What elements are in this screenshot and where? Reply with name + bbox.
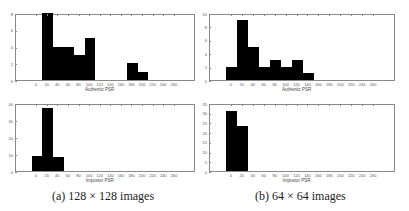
y-tick-mark — [15, 155, 17, 156]
x-tick-mark — [297, 104, 298, 106]
histogram-bar — [127, 63, 138, 80]
x-tick-mark — [329, 104, 330, 106]
y-tick-mark — [15, 172, 17, 173]
x-tick-mark — [340, 104, 341, 106]
y-tick-label: 6 — [195, 38, 207, 43]
plot-frame — [15, 14, 195, 81]
x-tick-label: 260 — [366, 173, 380, 178]
histogram-bar — [226, 111, 237, 171]
x-axis-label: Authentic PSR — [70, 87, 130, 92]
x-tick-mark — [373, 104, 374, 106]
x-tick-mark — [47, 104, 48, 106]
y-tick-mark — [209, 114, 211, 115]
y-tick-label: 40 — [1, 102, 13, 107]
x-tick-mark — [174, 14, 175, 16]
x-tick-mark — [275, 14, 276, 16]
y-tick-label: 35 — [195, 102, 207, 107]
x-tick-mark — [351, 104, 352, 106]
x-tick-mark — [307, 14, 308, 16]
histogram-bar — [292, 60, 303, 80]
y-tick-mark — [209, 41, 211, 42]
y-tick-mark — [209, 133, 211, 134]
x-tick-mark — [57, 14, 58, 16]
y-tick-mark — [209, 81, 211, 82]
y-tick-mark — [15, 31, 17, 32]
histogram-bar — [74, 55, 85, 80]
x-tick-mark — [68, 104, 69, 106]
x-tick-mark — [286, 104, 287, 106]
y-tick-label: 0 — [195, 79, 207, 84]
y-tick-mark — [209, 27, 211, 28]
x-axis-label: Authentic PSR — [267, 87, 327, 92]
y-tick-label: 0 — [195, 170, 207, 175]
y-tick-label: 4 — [195, 52, 207, 57]
x-tick-mark — [121, 14, 122, 16]
x-tick-mark — [253, 14, 254, 16]
x-tick-mark — [329, 14, 330, 16]
x-tick-mark — [89, 104, 90, 106]
x-tick-mark — [286, 14, 287, 16]
y-tick-label: 2 — [1, 62, 13, 67]
histogram-bar — [281, 67, 292, 80]
x-tick-mark — [36, 104, 37, 106]
y-tick-label: 10 — [1, 153, 13, 158]
histogram-bar — [42, 13, 53, 80]
y-tick-label: 6 — [1, 28, 13, 33]
x-tick-mark — [57, 104, 58, 106]
y-tick-label: 15 — [195, 140, 207, 145]
x-tick-mark — [340, 14, 341, 16]
x-tick-mark — [297, 14, 298, 16]
y-tick-label: 30 — [1, 119, 13, 124]
plot-frame — [209, 104, 395, 172]
x-tick-mark — [231, 14, 232, 16]
y-tick-mark — [209, 68, 211, 69]
y-tick-label: 10 — [195, 150, 207, 155]
y-tick-label: 20 — [195, 131, 207, 136]
x-tick-mark — [163, 104, 164, 106]
x-tick-mark — [110, 104, 111, 106]
x-tick-label: 260 — [167, 173, 181, 178]
histogram-bar — [85, 38, 96, 80]
histogram-bar — [53, 47, 64, 81]
y-tick-label: 8 — [195, 25, 207, 30]
x-tick-mark — [68, 14, 69, 16]
histogram-bar — [303, 73, 314, 80]
histogram-bar — [237, 20, 248, 80]
x-tick-mark — [231, 104, 232, 106]
x-tick-mark — [153, 14, 154, 16]
x-tick-mark — [362, 14, 363, 16]
histogram-bar — [53, 157, 64, 171]
y-tick-mark — [209, 123, 211, 124]
y-tick-mark — [15, 121, 17, 122]
y-tick-label: 10 — [195, 12, 207, 17]
y-tick-label: 4 — [1, 45, 13, 50]
x-tick-mark — [275, 104, 276, 106]
y-tick-mark — [209, 153, 211, 154]
x-tick-mark — [242, 104, 243, 106]
x-tick-mark — [142, 104, 143, 106]
x-tick-mark — [153, 104, 154, 106]
x-tick-mark — [264, 104, 265, 106]
x-tick-mark — [79, 104, 80, 106]
y-tick-mark — [15, 81, 17, 82]
y-tick-mark — [209, 14, 211, 15]
x-tick-mark — [36, 14, 37, 16]
x-tick-label: 260 — [366, 82, 380, 87]
histogram-bar — [138, 72, 149, 80]
x-tick-mark — [100, 104, 101, 106]
histogram-bar — [64, 47, 75, 81]
histogram-bar — [42, 108, 53, 171]
x-tick-mark — [351, 14, 352, 16]
caption-b: (b) 64 × 64 images — [255, 189, 346, 204]
x-tick-mark — [163, 14, 164, 16]
histogram-bar — [226, 67, 237, 80]
caption-a: (a) 128 × 128 images — [52, 189, 154, 204]
x-tick-label: 260 — [167, 82, 181, 87]
x-tick-mark — [79, 14, 80, 16]
plot-frame — [209, 14, 395, 81]
x-tick-mark — [307, 104, 308, 106]
y-tick-label: 0 — [1, 170, 13, 175]
x-tick-mark — [242, 14, 243, 16]
x-tick-mark — [131, 104, 132, 106]
y-tick-mark — [209, 143, 211, 144]
